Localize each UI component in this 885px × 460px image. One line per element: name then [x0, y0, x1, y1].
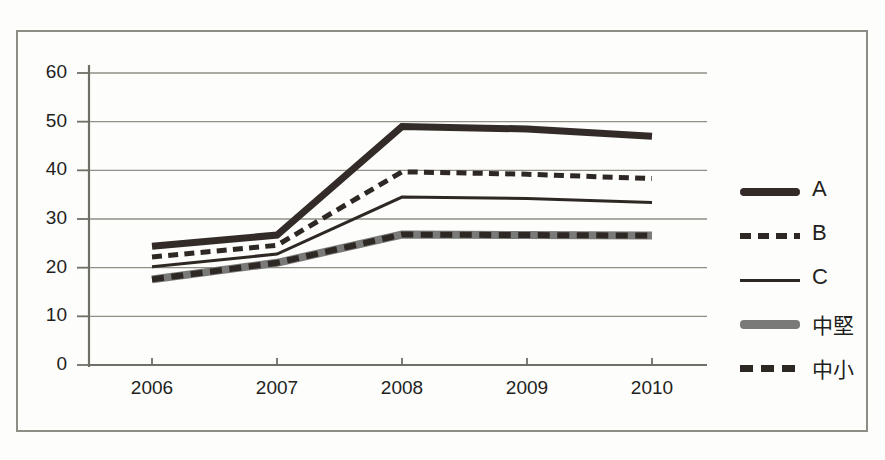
legend-label: 中堅: [812, 309, 854, 339]
chart-legend: ABC中堅中小: [740, 170, 880, 390]
x-axis-label: 2009: [487, 377, 567, 399]
line-chart-plot: [18, 32, 866, 430]
gridlines-group: [89, 73, 707, 365]
legend-swatch-icon: [740, 365, 800, 372]
legend-label: C: [812, 264, 828, 290]
y-axis-label: 0: [23, 353, 67, 375]
legend-item-中堅: 中堅: [740, 302, 880, 346]
x-axis-label: 2008: [362, 377, 442, 399]
x-axis-label: 2006: [112, 377, 192, 399]
data-series-group: [152, 127, 652, 280]
y-axis-label: 50: [23, 110, 67, 132]
legend-label: B: [812, 220, 827, 246]
legend-item-B: B: [740, 214, 880, 258]
x-axis-label: 2010: [612, 377, 692, 399]
x-axis-label: 2007: [237, 377, 317, 399]
y-axis-label: 10: [23, 304, 67, 326]
legend-item-C: C: [740, 258, 880, 302]
legend-swatch-icon: [740, 279, 800, 282]
legend-label: A: [812, 176, 827, 202]
legend-swatch-icon: [740, 188, 800, 196]
series-line-A: [152, 127, 652, 247]
y-axis-ticks-group: [77, 73, 89, 365]
y-axis-label: 40: [23, 158, 67, 180]
chart-frame: 0102030405060 20062007200820092010 ABC中堅…: [16, 30, 868, 432]
legend-swatch-icon: [740, 320, 800, 329]
y-axis-label: 60: [23, 61, 67, 83]
legend-item-中小: 中小: [740, 346, 880, 390]
legend-label: 中小: [812, 353, 854, 383]
y-axis-label: 20: [23, 256, 67, 278]
y-axis-label: 30: [23, 207, 67, 229]
series-line-B: [152, 172, 652, 257]
legend-swatch-icon: [740, 233, 800, 239]
screenshot-page: 0102030405060 20062007200820092010 ABC中堅…: [0, 0, 885, 460]
legend-item-A: A: [740, 170, 880, 214]
